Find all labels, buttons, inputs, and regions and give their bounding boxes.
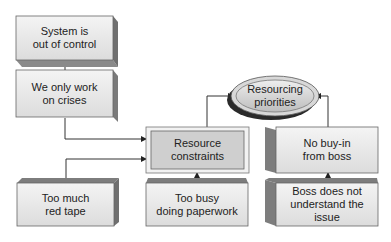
- label-line: Too much: [42, 192, 90, 205]
- label-line: No buy-in: [303, 137, 351, 150]
- label-only-work-on-crises: We only workon crises: [16, 70, 113, 117]
- label-no-buy-in: No buy-infrom boss: [276, 127, 378, 173]
- label-line: doing paperwork: [156, 205, 237, 218]
- label-line: Resource: [171, 137, 224, 150]
- label-line: on crises: [32, 94, 98, 107]
- label-paperwork: Too busydoing paperwork: [146, 183, 248, 226]
- label-resource-constraints: Resourceconstraints: [151, 131, 244, 169]
- label-line: red tape: [42, 205, 90, 218]
- label-line: Too busy: [156, 192, 237, 205]
- label-line: out of control: [33, 38, 97, 51]
- label-line: constraints: [171, 150, 224, 163]
- label-line: Boss does not: [276, 185, 378, 198]
- label-system-out-of-control: System isout of control: [16, 16, 113, 60]
- edge-redtape-to-constraints: [66, 159, 146, 178]
- label-line: understand the issue: [276, 198, 378, 224]
- label-line: We only work: [32, 81, 98, 94]
- label-resourcing-priorities: Resourcingpriorities: [236, 76, 314, 116]
- label-line: Resourcing: [247, 83, 303, 96]
- label-line: priorities: [247, 96, 303, 109]
- label-red-tape: Too muchred tape: [17, 183, 114, 226]
- label-line: System is: [33, 25, 97, 38]
- edge-crises-to-constraints: [65, 118, 146, 139]
- label-boss-not-understand: Boss does notunderstand the issue: [276, 183, 378, 226]
- label-line: from boss: [303, 150, 351, 163]
